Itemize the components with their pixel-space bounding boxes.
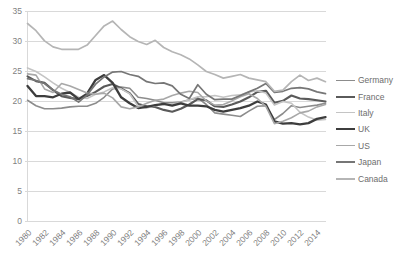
legend-label: Canada [358, 174, 388, 184]
legend-swatch-icon [336, 145, 355, 146]
data-series-group [28, 21, 326, 124]
legend-swatch-icon [336, 112, 355, 113]
legend-swatch-icon [336, 128, 355, 130]
y-tick-label: 20 [2, 96, 22, 106]
grid-lines [28, 12, 326, 222]
y-tick-label: 10 [2, 156, 22, 166]
legend-label: Italy [358, 108, 374, 118]
legend-label: France [358, 92, 384, 102]
legend-label: US [358, 141, 370, 151]
y-tick-label: 5 [2, 186, 22, 196]
y-tick-label: 35 [2, 6, 22, 16]
legend-label: Germany [358, 75, 393, 85]
legend-swatch-icon [336, 161, 355, 163]
legend-item-canada[interactable]: Canada [336, 170, 411, 186]
legend-swatch-icon [336, 178, 355, 180]
y-tick-label: 15 [2, 126, 22, 136]
series-line-uk [28, 75, 326, 124]
line-chart: 05101520253035 1980198219841986198819901… [0, 0, 411, 262]
legend-label: UK [358, 124, 370, 134]
legend-item-us[interactable]: US [336, 138, 411, 154]
legend-item-france[interactable]: France [336, 88, 411, 104]
legend-item-uk[interactable]: UK [336, 121, 411, 137]
legend-item-germany[interactable]: Germany [336, 72, 411, 88]
legend-swatch-icon [336, 96, 355, 98]
legend-swatch-icon [336, 80, 355, 81]
axis-lines [25, 12, 326, 222]
y-tick-label: 25 [2, 66, 22, 76]
legend-item-japan[interactable]: Japan [336, 154, 411, 170]
chart-legend: GermanyFranceItalyUKUSJapanCanada [336, 72, 411, 187]
legend-item-italy[interactable]: Italy [336, 105, 411, 121]
y-tick-label: 0 [2, 216, 22, 226]
legend-label: Japan [358, 157, 381, 167]
y-tick-label: 30 [2, 36, 22, 46]
series-line-canada [28, 21, 326, 91]
